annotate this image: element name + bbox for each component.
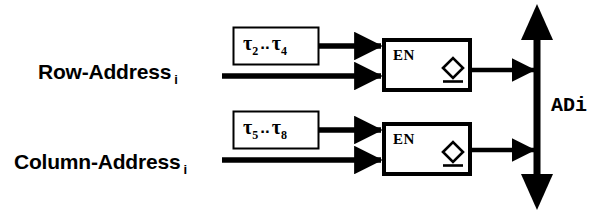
tau-lower-to-index: 8 [281,128,287,142]
column-address-label: Column-Addressi [14,150,187,177]
diagram-canvas [0,0,603,214]
tau-upper-to-index: 4 [281,44,287,58]
register-upper-enable-label: EN [393,47,415,64]
tau-lower-separator: .. [258,118,271,137]
tau-upper-separator: .. [258,34,271,53]
row-address-label-text: Row-Address [38,60,171,83]
clock-diamond-lower-icon [443,142,463,162]
address-bus-label: ADi [551,94,587,117]
row-address-label: Row-Addressi [38,60,178,87]
column-address-label-text: Column-Address [14,150,180,173]
register-lower-enable-label: EN [393,131,415,148]
tau-lower-symbol-from: τ [243,116,252,138]
tau-lower-symbol-to: τ [272,116,281,138]
tau-box-upper-content: τ2..τ4 [243,33,287,57]
tau-upper-symbol-from: τ [243,32,252,54]
address-bus-arrowhead-down-icon [521,174,553,210]
clock-diamond-upper-icon [443,58,463,78]
row-address-subscript: i [171,72,177,87]
column-address-subscript: i [180,162,186,177]
tau-upper-symbol-to: τ [272,32,281,54]
address-register-diagram: Row-Addressi Column-Addressi τ2..τ4 τ5..… [0,0,603,214]
tau-box-lower-content: τ5..τ8 [243,117,287,141]
address-bus-arrowhead-up-icon [521,4,553,40]
